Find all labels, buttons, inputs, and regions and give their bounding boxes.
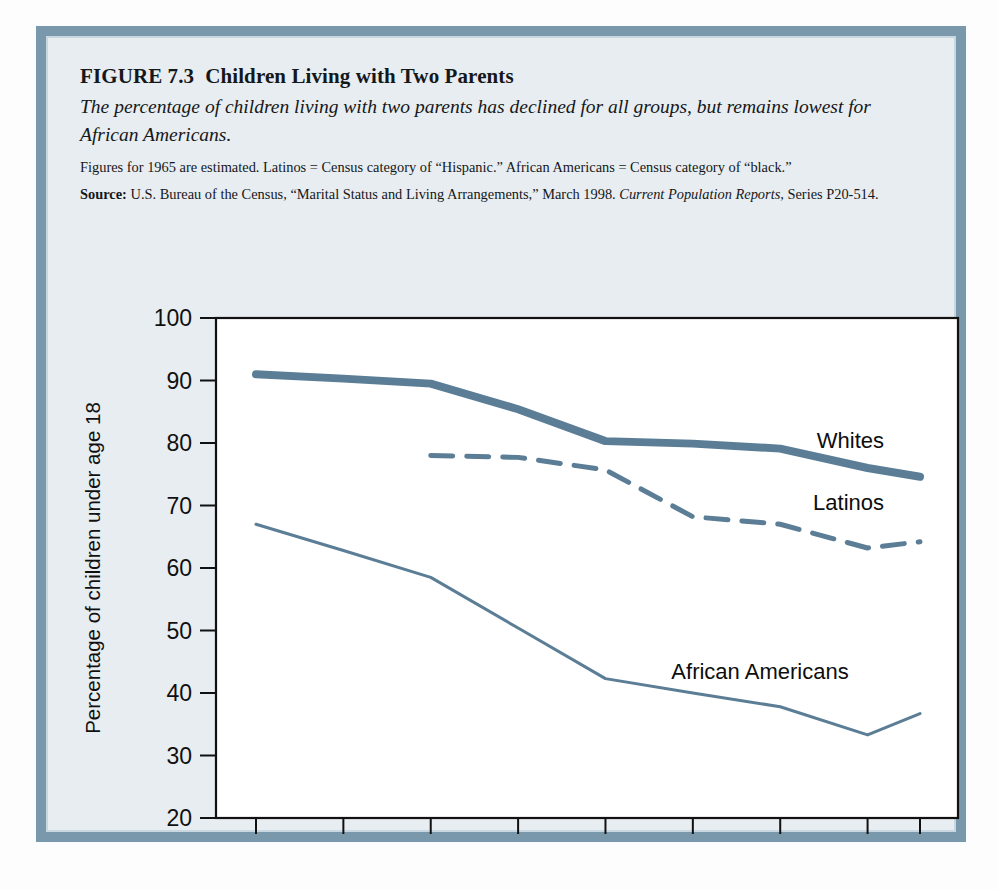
figure-page: FIGURE 7.3Children Living with Two Paren… bbox=[0, 0, 998, 889]
source-text-part1: U.S. Bureau of the Census, “Marital Stat… bbox=[127, 186, 619, 202]
y-tick-label-20: 20 bbox=[166, 805, 192, 831]
figure-note: Figures for 1965 are estimated. Latinos … bbox=[80, 158, 930, 177]
y-tick-label-30: 30 bbox=[166, 743, 192, 769]
line-chart: 2030405060708090100 19601965197019751980… bbox=[56, 258, 968, 838]
figure-subtitle: The percentage of children living with t… bbox=[80, 93, 920, 149]
series-label-latinos: Latinos bbox=[813, 490, 884, 515]
y-tick-label-40: 40 bbox=[166, 680, 192, 706]
y-axis-title: Percentage of children under age 18 bbox=[81, 402, 104, 734]
y-tick-label-60: 60 bbox=[166, 555, 192, 581]
plot-area-background bbox=[216, 318, 958, 818]
x-axis: 196019651970197519801985199019951998 bbox=[230, 818, 945, 838]
source-publication: Current Population Reports, bbox=[619, 186, 784, 202]
y-tick-label-100: 100 bbox=[154, 305, 192, 331]
y-tick-label-50: 50 bbox=[166, 618, 192, 644]
figure-number: FIGURE 7.3 bbox=[80, 64, 194, 88]
chart-canvas: 2030405060708090100 19601965197019751980… bbox=[56, 258, 968, 838]
y-tick-label-70: 70 bbox=[166, 493, 192, 519]
source-text-part2: Series P20-514. bbox=[784, 186, 879, 202]
figure-title: FIGURE 7.3Children Living with Two Paren… bbox=[80, 64, 942, 88]
figure-source: Source: U.S. Bureau of the Census, “Mari… bbox=[80, 185, 940, 204]
y-tick-label-80: 80 bbox=[166, 430, 192, 456]
y-tick-label-90: 90 bbox=[166, 368, 192, 394]
figure-header: FIGURE 7.3Children Living with Two Paren… bbox=[80, 64, 942, 204]
series-label-whites: Whites bbox=[817, 428, 884, 453]
figure-frame: FIGURE 7.3Children Living with Two Paren… bbox=[36, 26, 966, 842]
series-label-african-americans: African Americans bbox=[671, 659, 848, 684]
figure-title-text: Children Living with Two Parents bbox=[205, 64, 514, 88]
source-label: Source: bbox=[80, 186, 127, 202]
